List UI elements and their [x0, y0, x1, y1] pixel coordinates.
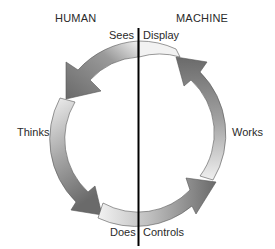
header-machine: MACHINE [176, 12, 228, 24]
arrow-does-to-works [98, 178, 216, 226]
label-does: Does [110, 226, 136, 238]
arrow-thinks-to-does [50, 98, 102, 215]
human-machine-cycle-diagram: HUMAN MACHINE Sees Display Thinks Works … [0, 0, 275, 249]
label-sees: Sees [109, 29, 134, 41]
arrow-works-to-display [176, 57, 226, 180]
label-controls: Controls [143, 226, 184, 238]
ring-segment-display [139, 41, 180, 57]
label-display: Display [143, 29, 179, 41]
label-thinks: Thinks [17, 126, 49, 138]
cycle-graphic [0, 0, 275, 249]
label-works: Works [232, 126, 263, 138]
header-human: HUMAN [55, 12, 96, 24]
arrow-sees-to-thinks [66, 41, 138, 99]
